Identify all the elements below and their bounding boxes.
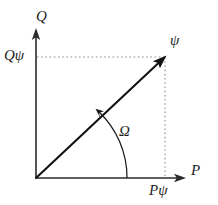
q-projection-label: Qψ (4, 48, 24, 63)
p-axis-label: P (191, 163, 200, 178)
angle-omega-label: Ω (119, 124, 130, 139)
vector-diagram-figure: Q ψ Qψ Ω P Pψ (0, 0, 218, 205)
psi-vector-label: ψ (170, 33, 179, 48)
diagram-canvas (0, 0, 218, 205)
angle-arc (99, 112, 127, 179)
p-projection-label: Pψ (149, 183, 167, 198)
psi-vector-line (36, 63, 159, 178)
q-axis-label: Q (36, 9, 47, 24)
